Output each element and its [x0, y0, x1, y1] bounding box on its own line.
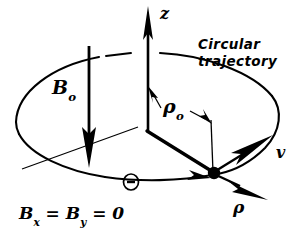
velocity-vector-arrow [214, 135, 273, 172]
radial-line-to-particle [147, 131, 213, 172]
trajectory-caption: Circulartrajectory [198, 36, 277, 70]
condition-b-y: B [66, 203, 80, 223]
velocity-label: v [276, 145, 285, 161]
rho0-subscript: o [176, 109, 184, 123]
out-of-page-circle-symbol [124, 174, 139, 190]
trajectory-label-leader-line [171, 44, 196, 49]
horizontal-reference-axis [22, 127, 138, 169]
b0-base: B [52, 76, 68, 98]
physics-diagram-figure: z Bo ρo v ρ Bx = By = 0 Circulartrajecto… [0, 0, 308, 242]
z-axis-label: z [160, 6, 169, 22]
rho0-base: ρ [163, 95, 176, 117]
b0-field-label: Bo [52, 78, 76, 102]
b0-field-arrow [82, 46, 96, 168]
velocity-arrowhead [231, 135, 273, 165]
condition-b-x: B [19, 203, 33, 223]
dimension-arrow-right-head [199, 109, 212, 124]
condition-equals-1: = [40, 203, 66, 223]
ellipse-left-segment [16, 122, 19, 134]
ellipse-back-dash-segment [106, 53, 131, 56]
field-condition-label: Bx = By = 0 [19, 205, 124, 225]
trajectory-caption-line1: Circular [198, 36, 260, 52]
trajectory-caption-line2: trajectory [198, 53, 277, 69]
condition-subscript-y: y [80, 216, 86, 228]
vertical-drop-line [211, 120, 213, 172]
rho-unit-vector-label: ρ [233, 199, 244, 216]
condition-subscript-x: x [34, 216, 40, 228]
ellipse-right-front-segment [218, 96, 279, 174]
rho0-label: ρo [163, 97, 184, 121]
condition-equals-zero: = 0 [86, 203, 124, 223]
z-axis-arrow [143, 6, 153, 131]
b0-subscript: o [68, 90, 76, 104]
charged-particle-dot [208, 167, 220, 179]
